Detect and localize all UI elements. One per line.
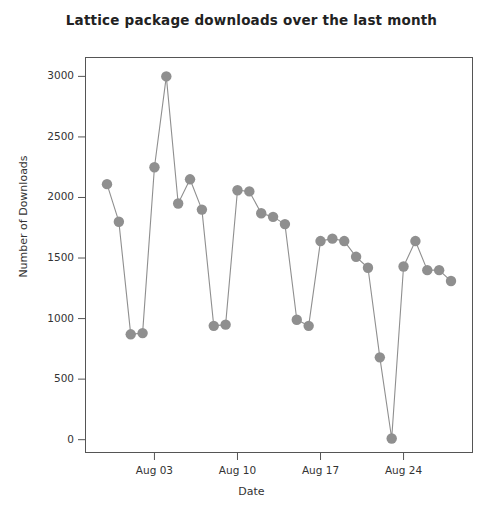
y-tick-label: 1000: [32, 312, 74, 324]
chart-root: Lattice package downloads over the last …: [0, 0, 503, 523]
x-tick-label: Aug 24: [369, 464, 439, 476]
y-axis-title: Number of Downloads: [17, 132, 30, 302]
x-axis-tick-marks: [154, 453, 403, 460]
y-tick-label: 2000: [32, 190, 74, 202]
x-tick-label: Aug 03: [119, 464, 189, 476]
chart-title: Lattice package downloads over the last …: [0, 12, 503, 28]
y-axis-tick-marks: [78, 76, 85, 439]
y-tick-label: 500: [32, 372, 74, 384]
y-tick-label: 0: [32, 433, 74, 445]
x-tick-label: Aug 17: [286, 464, 356, 476]
x-tick-label: Aug 10: [202, 464, 272, 476]
plot-area: [85, 57, 473, 453]
y-tick-label: 1500: [32, 251, 74, 263]
y-tick-label: 2500: [32, 130, 74, 142]
x-axis-title: Date: [0, 485, 503, 498]
y-tick-label: 3000: [32, 69, 74, 81]
